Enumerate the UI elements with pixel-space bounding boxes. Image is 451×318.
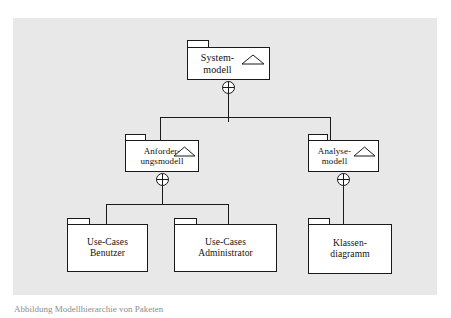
package-label-anforderungsmodell: Anforder- ungsmodell xyxy=(141,146,184,166)
diagram-panel: System- modell Anforder- ungsmodell xyxy=(13,18,437,295)
package-body: Use-Cases Administrator xyxy=(174,224,277,272)
package-body: Analyse- modell xyxy=(308,140,379,172)
connector-level2-bus xyxy=(106,204,228,205)
package-systemmodell[interactable]: System- modell xyxy=(187,40,270,80)
package-usecases-benutzer[interactable]: Use-Cases Benutzer xyxy=(67,218,148,272)
package-label-systemmodell: System- modell xyxy=(201,52,256,74)
package-analysemodell[interactable]: Analyse- modell xyxy=(308,134,379,172)
package-label-usecases-administrator: Use-Cases Administrator xyxy=(198,237,253,258)
figure-root: System- modell Anforder- ungsmodell xyxy=(0,0,451,318)
connector-level1-bus xyxy=(160,117,330,118)
connector-anforderungsmodell-stem xyxy=(162,179,163,204)
package-label-usecases-benutzer: Use-Cases Benutzer xyxy=(87,237,128,258)
package-anforderungsmodell[interactable]: Anforder- ungsmodell xyxy=(125,134,199,172)
package-label-klassendiagramm: Klassen- diagramm xyxy=(330,238,369,259)
package-body: Anforder- ungsmodell xyxy=(125,140,199,172)
package-usecases-administrator[interactable]: Use-Cases Administrator xyxy=(174,218,277,272)
package-body: Klassen- diagramm xyxy=(308,224,392,274)
package-body: Use-Cases Benutzer xyxy=(67,224,148,272)
package-klassendiagramm[interactable]: Klassen- diagramm xyxy=(308,218,392,274)
package-label-analysemodell: Analyse- modell xyxy=(318,146,369,166)
figure-caption: Abbildung Modellhierarchie von Paketen xyxy=(14,304,434,314)
package-body: System- modell xyxy=(187,47,270,80)
